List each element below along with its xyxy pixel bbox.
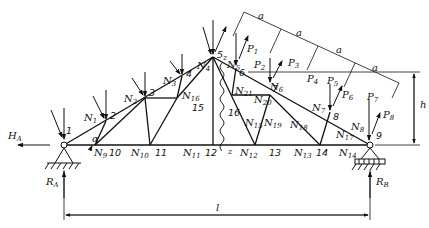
panel-dimension-label: a [258, 11, 264, 21]
node-label: 10 [109, 148, 121, 158]
truss-members [64, 57, 370, 145]
load-label-P2: P2 [254, 60, 265, 72]
member-label-N21: N21 [235, 86, 253, 98]
member-label-N5: N5 [227, 60, 240, 72]
member-label-N7: N7 [312, 103, 325, 115]
member-label-N3: N3 [163, 76, 176, 88]
node-label: 11 [155, 148, 167, 158]
load-label-P1: P1 [247, 44, 258, 56]
member-label-N20: N20 [254, 95, 272, 107]
reaction-label-HA: HA [8, 131, 22, 143]
member-label-N6: N6 [270, 82, 283, 94]
member-label-N11: N11 [183, 148, 201, 160]
load-label-P7: P7 [367, 92, 378, 104]
panel-dimension-label: a [296, 28, 302, 38]
node-label: 14 [316, 148, 328, 158]
left-support [45, 142, 81, 169]
node-label: 3 [149, 88, 155, 98]
node-label: 9 [376, 131, 382, 141]
node-label: 16 [228, 108, 240, 118]
node-label: 2 [110, 111, 116, 121]
load-label-P6: P6 [342, 90, 353, 102]
member-label-N15: N15 [245, 118, 263, 130]
member-label-N1: N1 [84, 113, 97, 125]
section-label-top: z [223, 54, 227, 62]
member-label-N12: N12 [240, 148, 258, 160]
member-label-N16: N16 [182, 91, 200, 103]
load-label-P3: P3 [288, 58, 299, 70]
member-label-N18: N18 [290, 120, 308, 132]
panel-dimension-label: a [372, 63, 378, 73]
span-dimension-label: l [216, 203, 219, 213]
node-label: 4 [186, 69, 192, 79]
load-label-P8: P8 [383, 110, 394, 122]
member-label-N2: N2 [124, 94, 137, 106]
dimension-lines [64, 12, 420, 220]
panel-dimension-label: a [336, 45, 342, 55]
angle-label: α [92, 134, 99, 144]
node-label: 1 [66, 126, 72, 136]
node-label: 8 [333, 112, 339, 122]
member-label-N9: N9 [94, 148, 107, 160]
member-label-N4: N4 [197, 61, 210, 73]
node-label: 12 [205, 148, 217, 158]
member-label-N13: N13 [294, 148, 312, 160]
reaction-label-RA: RA [46, 177, 59, 189]
node-label: 13 [269, 148, 281, 158]
right-support [352, 142, 385, 170]
reaction-label-RB: RB [376, 177, 389, 189]
node-label: 15 [192, 103, 204, 113]
truss-diagram: 1 2 3 4 5 6 7 8 9 10 11 12 13 14 15 16 N… [0, 0, 429, 228]
truss-drawing [0, 0, 429, 228]
load-label-P5: P5 [327, 76, 338, 88]
member-label-N17: N17 [336, 130, 354, 142]
section-label-bottom: z [228, 148, 232, 156]
member-label-N14: N14 [339, 148, 357, 160]
load-label-P4: P4 [307, 74, 318, 86]
height-dimension-label: h [420, 100, 426, 110]
member-label-N10: N10 [131, 148, 149, 160]
member-label-N19: N19 [264, 118, 282, 130]
